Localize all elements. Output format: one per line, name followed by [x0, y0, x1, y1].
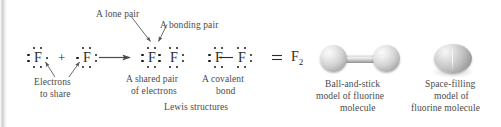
fluorine-space-filling-sphere — [434, 44, 472, 73]
electron-dot — [27, 54, 29, 56]
annotation-shared-pair-line1: A shared pair — [126, 74, 178, 85]
page-gutter-edge — [0, 0, 7, 127]
lone-pair-electron-dot — [141, 54, 143, 56]
annotation-bonding-pair: A bonding pair — [160, 20, 218, 31]
formula-subscript: 2 — [299, 57, 304, 67]
lone-pair-electron-dot — [141, 60, 143, 62]
equals-sign-graphic — [272, 56, 282, 60]
bond-stick — [344, 55, 376, 63]
caption-lewis-structures: Lewis structures — [164, 102, 228, 113]
electron-dot — [27, 60, 29, 62]
plus-sign: + — [58, 50, 65, 66]
figure-canvas: F + F F F — [0, 0, 501, 127]
annotation-electrons-to-share-line2: to share — [40, 89, 71, 100]
annotation-electrons-to-share-line1: Electrons — [34, 77, 71, 88]
caption-space-filling-line1: Space-filling — [425, 79, 475, 90]
unpaired-electron-dot — [76, 57, 78, 59]
fluorine-sphere-left — [320, 45, 347, 72]
lone-pair-electron-dot — [208, 54, 210, 56]
sphere-seam-highlight — [452, 46, 453, 72]
caption-space-filling-line3: fluorine molecule — [411, 103, 480, 114]
caption-ball-and-stick-line1: Ball-and-stick — [325, 79, 380, 90]
lewis-atom-fluorine-reactant-1: F — [25, 45, 51, 71]
annotation-covalent-bond-line2: bond — [216, 86, 235, 97]
formula-symbol: F — [291, 49, 299, 64]
caption-ball-and-stick-line2: model of fluorine — [316, 91, 384, 102]
atom-symbol: F — [161, 45, 187, 71]
annotation-covalent-bond-line1: A covalent — [202, 74, 244, 85]
lone-pair-electron-dot — [208, 60, 210, 62]
fluorine-sphere-right — [373, 45, 400, 72]
caption-ball-and-stick-line3: molecule — [340, 103, 376, 114]
molecular-formula: F2 — [291, 49, 303, 67]
lewis-atom-fluorine-bondline-right: F — [229, 45, 255, 71]
annotation-lone-pair: A lone pair — [96, 9, 139, 20]
caption-space-filling-line2: model of — [434, 91, 469, 102]
lewis-atom-fluorine-reactant-2: F — [74, 45, 100, 71]
lewis-atom-fluorine-product-right: F — [161, 45, 187, 71]
atom-symbol: F — [229, 45, 255, 71]
lone-pair-leader-line — [132, 17, 151, 42]
annotation-shared-pair-line2: of electrons — [131, 86, 177, 97]
